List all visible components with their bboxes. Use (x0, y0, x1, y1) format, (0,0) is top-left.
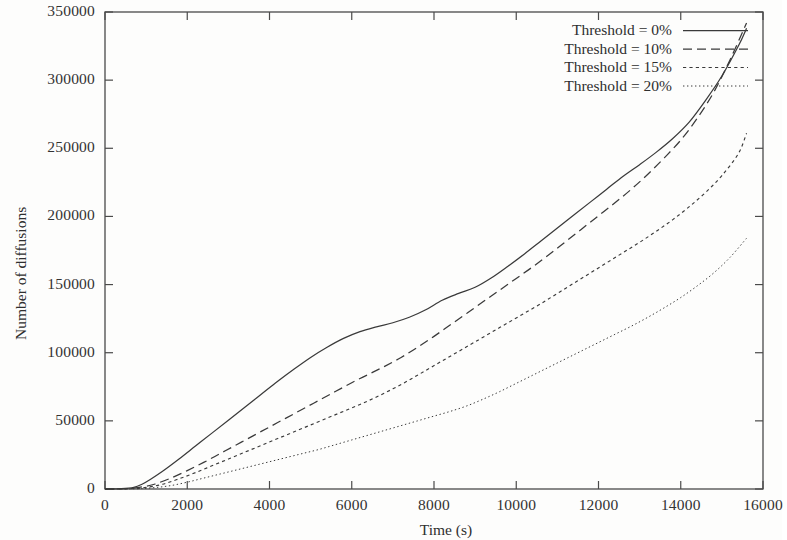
y-tick-label: 100000 (47, 343, 95, 361)
x-axis-title: Time (s) (55, 521, 787, 539)
y-tick-label: 350000 (47, 2, 95, 20)
y-tick-label: 150000 (47, 275, 95, 293)
y-tick-label: 200000 (47, 206, 95, 224)
y-axis-title: Number of diffusions (12, 207, 30, 340)
y-tick-label: 0 (87, 479, 95, 497)
legend-entry-label: Threshold = 20% (400, 77, 672, 95)
series-line-0 (105, 28, 747, 489)
x-tick-label: 16000 (713, 496, 787, 514)
series-line-2 (105, 133, 747, 489)
y-tick-label: 50000 (55, 411, 95, 429)
legend-entry-label: Threshold = 10% (400, 40, 672, 58)
series-line-3 (105, 238, 747, 489)
legend-entry-label: Threshold = 15% (400, 58, 672, 76)
legend-entry-label: Threshold = 0% (400, 21, 672, 39)
y-tick-label: 300000 (47, 70, 95, 88)
legend-line-samples (683, 31, 748, 87)
y-tick-label: 250000 (47, 138, 95, 156)
